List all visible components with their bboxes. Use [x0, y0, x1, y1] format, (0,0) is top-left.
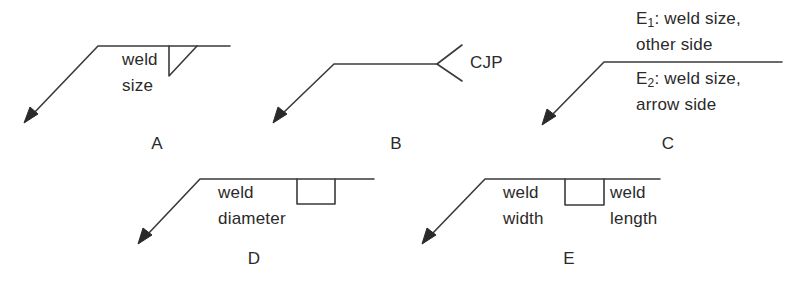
panel-d-text-line2: diameter: [218, 206, 286, 232]
panel-b-tail-icon: [437, 45, 462, 81]
panel-a-text-line2: size: [122, 73, 158, 99]
panel-e-right-line2: length: [610, 206, 658, 232]
panel-c-arrow-side-line2: arrow side: [636, 92, 741, 118]
e2-prefix: E: [636, 69, 648, 88]
panel-e-label: E: [563, 249, 574, 269]
panel-e-right-line1: weld: [610, 180, 658, 206]
panel-c-other-side-line1: E1: weld size,: [636, 6, 741, 32]
panel-b-symbol: [273, 45, 462, 123]
panel-c-arrow-side-text: E2: weld size, arrow side: [636, 66, 741, 118]
panel-e-left-line1: weld: [503, 180, 544, 206]
panel-b-label: B: [390, 134, 401, 154]
panel-d-plug-box-icon: [297, 179, 335, 204]
panel-a-text: weld size: [122, 47, 158, 99]
panel-e-left-text: weld width: [503, 180, 544, 232]
panel-b-arrowhead-icon: [273, 107, 287, 123]
panel-e-left-line2: width: [503, 206, 544, 232]
e2-description: : weld size,: [654, 69, 741, 88]
panel-d-label: D: [248, 249, 260, 269]
e1-description: : weld size,: [654, 9, 741, 28]
panel-e-right-text: weld length: [610, 180, 658, 232]
panel-c-other-side-line2: other side: [636, 32, 741, 58]
panel-a-fillet-triangle-icon: [169, 46, 197, 76]
panel-d-text: weld diameter: [218, 180, 286, 232]
panel-c-label: C: [662, 134, 674, 154]
panel-b-leader-and-reference-line: [282, 64, 437, 114]
panel-e-slot-box-icon: [565, 179, 604, 205]
panel-b-tail-text: CJP: [470, 50, 503, 76]
panel-d-text-line1: weld: [218, 180, 286, 206]
panel-a-text-line1: weld: [122, 47, 158, 73]
e1-prefix: E: [636, 9, 648, 28]
panel-d-arrowhead-icon: [138, 228, 152, 244]
panel-c-arrowhead-icon: [542, 109, 556, 125]
panel-c-arrow-side-line1: E2: weld size,: [636, 66, 741, 92]
panel-c-other-side-text: E1: weld size, other side: [636, 6, 741, 58]
panel-a-arrowhead-icon: [24, 107, 38, 123]
panel-a-label: A: [151, 134, 162, 154]
panel-e-arrowhead-icon: [422, 228, 436, 244]
